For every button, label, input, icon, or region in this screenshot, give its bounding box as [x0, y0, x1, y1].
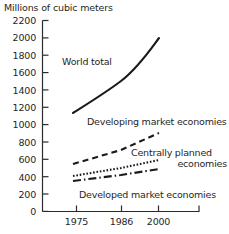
y-tick-label-400: 400	[2, 172, 36, 183]
y-tick-label-1200: 1200	[2, 102, 36, 113]
y-tick-label-600: 600	[2, 154, 36, 165]
series-line-world-total	[73, 38, 159, 113]
y-axis-ticks	[43, 21, 49, 212]
y-tick-label-2200: 2200	[2, 15, 36, 26]
y-tick-label-1000: 1000	[2, 119, 36, 130]
series-label-centrally-planned-economies: Centrally planned economies	[131, 147, 227, 169]
y-tick-label-1600: 1600	[2, 67, 36, 78]
x-axis-ticks	[77, 206, 200, 212]
chart-container: Millions of cubic meters	[0, 0, 229, 234]
x-tick-label-1986: 1986	[103, 216, 140, 227]
x-tick-label-2000: 2000	[140, 216, 177, 227]
series-label-developed-market-economies: Developed market economies	[79, 189, 216, 200]
series-label-developing-market-economies: Developing market economies	[87, 116, 227, 127]
series-label-world-total: World total	[62, 56, 112, 67]
x-tick-label-1975: 1975	[58, 216, 95, 227]
series-label-centrally-planned-line2: economies	[131, 158, 227, 169]
y-tick-label-0: 0	[2, 206, 36, 217]
y-tick-label-800: 800	[2, 137, 36, 148]
y-tick-label-2000: 2000	[2, 32, 36, 43]
series-line-developed-market-economies	[73, 169, 159, 181]
y-tick-label-200: 200	[2, 189, 36, 200]
y-tick-label-1400: 1400	[2, 85, 36, 96]
series-label-centrally-planned-line1: Centrally planned	[131, 147, 212, 158]
y-tick-label-1800: 1800	[2, 50, 36, 61]
